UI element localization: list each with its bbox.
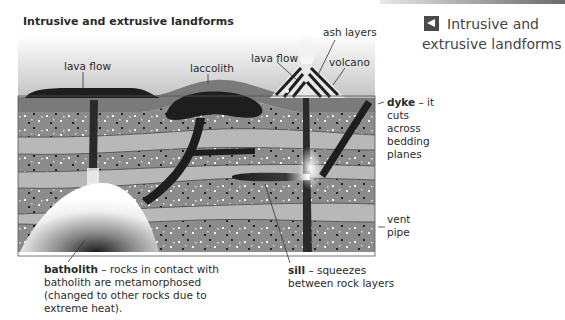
dyke-line: cuts bbox=[387, 109, 434, 122]
label-lava-flow-right: lava flow bbox=[251, 52, 298, 64]
batholith-line: batholith are metamorphosed bbox=[44, 276, 219, 289]
note-vent-pipe: vent pipe bbox=[387, 213, 410, 239]
sill-text: – squeezes bbox=[305, 264, 366, 276]
dyke-text: – it bbox=[415, 96, 434, 108]
sill-term: sill bbox=[288, 264, 305, 276]
vent-pipe-line: pipe bbox=[387, 226, 410, 239]
label-laccolith: laccolith bbox=[190, 62, 234, 74]
batholith-text: – rocks in contact with bbox=[98, 263, 219, 275]
dyke-term: dyke bbox=[387, 96, 415, 108]
label-lava-flow-left: lava flow bbox=[64, 60, 111, 72]
sill-line: between rock layers bbox=[288, 277, 394, 290]
note-batholith: batholith – rocks in contact with bathol… bbox=[44, 263, 219, 315]
sill bbox=[232, 173, 310, 182]
lava-flow-left bbox=[25, 88, 160, 98]
label-volcano: volcano bbox=[329, 56, 370, 68]
vent-pipe-line: vent bbox=[387, 213, 410, 226]
dyke-line: bedding bbox=[387, 135, 434, 148]
batholith-line: extreme heat). bbox=[44, 302, 219, 315]
label-ash-layers: ash layers bbox=[323, 26, 377, 38]
note-dyke: dyke – it cuts across bedding planes bbox=[387, 96, 434, 161]
dyke-line: planes bbox=[387, 148, 434, 161]
smoke-plume bbox=[299, 32, 315, 68]
batholith-term: batholith bbox=[44, 263, 98, 275]
feeder-dyke-left bbox=[89, 100, 98, 170]
note-sill: sill – squeezes between rock layers bbox=[288, 264, 394, 290]
batholith-line: (changed to other rocks due to bbox=[44, 289, 219, 302]
dyke-line: across bbox=[387, 122, 434, 135]
